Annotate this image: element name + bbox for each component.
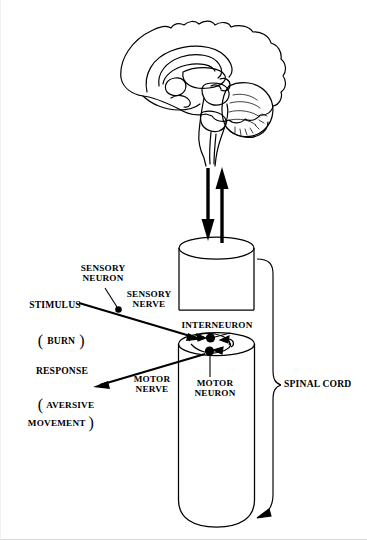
label-response: RESPONSE	[25, 366, 99, 377]
medulla-center-line	[210, 132, 211, 164]
ascending-arrowhead	[216, 167, 229, 189]
label-spinal-cord: SPINAL CORD	[284, 379, 364, 390]
cerebellum-inferior-edge	[227, 122, 268, 137]
fornix-arc	[163, 64, 215, 84]
label-sensory-nerve: SENSORY NERVE	[114, 289, 184, 310]
optic-chiasm	[171, 96, 190, 108]
cerebellum-outline	[222, 83, 273, 137]
bracket-lower-arrowhead	[257, 509, 271, 518]
brainstem-right	[215, 104, 228, 166]
stimulus-detail-text: BURN	[43, 335, 79, 346]
label-sensory-neuron: SENSORY NEURON	[69, 263, 137, 284]
response-paren-close: )	[89, 414, 95, 431]
upper-cylinder-top-ellipse	[179, 237, 254, 259]
label-motor-neuron: MOTOR NEURON	[182, 378, 248, 399]
label-motor-nerve: MOTOR NERVE	[123, 374, 181, 395]
spinal-cord-lower-cylinder	[179, 333, 255, 528]
spinal-cord-bracket	[257, 259, 281, 518]
bracket-lower-half	[261, 385, 281, 516]
reflex-arc-diagram: SENSORY NEURON SENSORY NERVE STIMULUS (B…	[0, 0, 367, 540]
lower-cylinder-bottom-cap	[179, 500, 255, 527]
interneuron-dot	[206, 333, 215, 342]
label-interneuron: INTERNEURON	[173, 320, 261, 330]
brainstem-left	[199, 98, 206, 166]
diagram-canvas	[1, 0, 367, 540]
motor-neuron-dot	[205, 346, 214, 355]
label-response-detail: (AVERSIVE MOVEMENT)	[15, 386, 107, 442]
stimulus-paren-close: )	[79, 332, 85, 349]
label-stimulus: STIMULUS	[18, 300, 92, 311]
spinal-cord-upper-cylinder	[179, 237, 254, 310]
synapse-arrowhead-1	[197, 334, 206, 341]
label-stimulus-detail: (BURN)	[16, 321, 96, 360]
brain-illustration	[121, 21, 286, 166]
tract-arrows	[202, 167, 229, 243]
cerebrum-outline	[121, 21, 286, 123]
septum-swirl	[165, 78, 185, 96]
